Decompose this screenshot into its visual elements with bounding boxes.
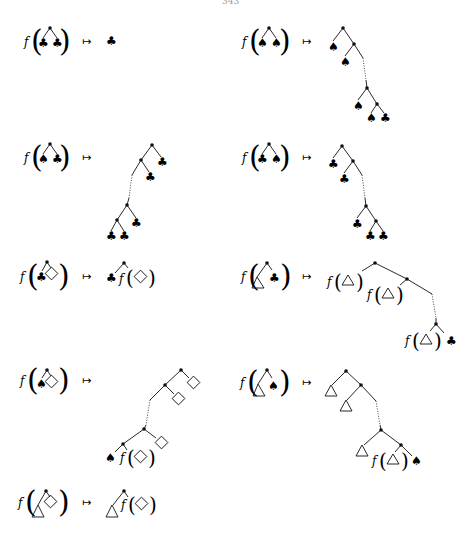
spade-icon: ♠ xyxy=(268,379,279,393)
club-icon: ♣ xyxy=(131,216,142,230)
function-symbol: f xyxy=(241,35,249,49)
function-symbol: f xyxy=(120,498,128,512)
maps-to-arrow: ↦ xyxy=(82,374,91,387)
club-icon: ♣ xyxy=(106,34,117,48)
rule-6: f ( ♣ ) ↦ f ( ) f ( ) f ( ) ♣ xyxy=(240,258,457,353)
club-icon: ♣ xyxy=(106,271,117,285)
diamond-icon xyxy=(135,497,148,510)
spade-icon: ♠ xyxy=(340,55,351,69)
club-icon: ♣ xyxy=(339,172,350,186)
function-symbol: f xyxy=(326,275,334,289)
function-symbol: f xyxy=(239,376,247,390)
diamond-icon xyxy=(45,267,58,280)
maps-to-arrow: ↦ xyxy=(82,496,91,509)
rule-1: f ( ♣ ♣ ) ↦ ♣ xyxy=(23,23,117,58)
diamond-icon xyxy=(45,375,58,388)
maps-to-arrow: ↦ xyxy=(302,35,311,48)
spade-icon: ♠ xyxy=(257,36,268,50)
triangle-icon xyxy=(382,288,394,298)
close-paren: ) xyxy=(149,493,157,517)
open-paren: ( xyxy=(128,493,136,517)
rule-5: f ( ♣ ) ↦ ♣ f ( ) xyxy=(19,258,156,293)
close-paren: ) xyxy=(148,446,156,470)
open-paren: ( xyxy=(126,266,134,290)
triangle-icon xyxy=(325,385,337,396)
open-paren: ( xyxy=(374,283,382,307)
maps-to-arrow: ↦ xyxy=(302,376,311,389)
close-paren: ) xyxy=(280,258,292,293)
close-paren: ) xyxy=(401,449,409,473)
spade-icon: ♠ xyxy=(353,99,364,113)
close-paren: ) xyxy=(148,266,156,290)
club-icon: ♣ xyxy=(328,157,339,171)
rule-8: f ( ♠ ) ↦ f ( ) ♠ xyxy=(239,364,422,473)
maps-to-arrow: ↦ xyxy=(82,270,91,283)
club-icon: ♣ xyxy=(257,152,268,166)
club-icon: ♣ xyxy=(352,217,363,231)
diamond-icon xyxy=(134,270,147,283)
maps-to-arrow: ↦ xyxy=(302,270,311,283)
spade-icon: ♠ xyxy=(366,111,377,125)
diamond-icon xyxy=(44,495,57,508)
spade-icon: ♠ xyxy=(36,377,47,391)
function-symbol: f xyxy=(241,151,249,165)
tree-rewrite-diagram: f ( ♣ ♣ ) ↦ ♣ f ( ♠ ♠ ) ↦ ♠ ♠ ♠ xyxy=(0,0,466,534)
spade-icon: ♠ xyxy=(105,451,116,465)
club-icon: ♣ xyxy=(36,270,47,284)
rule-4: f ( ♣ ♠ ) ↦ ♣ ♣ ♣ ♣ ♣ xyxy=(241,139,389,243)
open-paren: ( xyxy=(247,364,259,399)
maps-to-arrow: ↦ xyxy=(82,151,91,164)
close-paren: ) xyxy=(59,23,71,58)
spade-icon: ♠ xyxy=(328,40,339,54)
close-paren: ) xyxy=(356,270,364,294)
open-paren: ( xyxy=(334,270,342,294)
club-icon: ♣ xyxy=(378,229,389,243)
maps-to-arrow: ↦ xyxy=(302,151,311,164)
function-symbol: f xyxy=(371,454,379,468)
function-symbol: f xyxy=(119,451,127,465)
function-symbol: f xyxy=(118,272,126,286)
function-symbol: f xyxy=(23,151,31,165)
triangle-icon xyxy=(342,275,354,285)
function-symbol: f xyxy=(19,270,27,284)
close-paren: ) xyxy=(59,139,71,174)
close-paren: ) xyxy=(58,484,70,519)
club-icon: ♣ xyxy=(380,111,391,125)
spade-icon: ♠ xyxy=(411,454,422,468)
function-symbol: f xyxy=(366,288,374,302)
club-icon: ♣ xyxy=(106,229,117,243)
close-paren: ) xyxy=(434,329,442,353)
rule-9: f ( ) ↦ f ( ) xyxy=(17,484,157,519)
close-paren: ) xyxy=(58,362,70,397)
rule-2: f ( ♠ ♠ ) ↦ ♠ ♠ ♠ ♠ ♣ xyxy=(241,23,391,125)
close-paren: ) xyxy=(396,283,404,307)
diamond-icon xyxy=(172,392,185,405)
club-icon: ♣ xyxy=(38,36,49,50)
club-icon: ♣ xyxy=(145,170,156,184)
club-icon: ♣ xyxy=(269,271,280,285)
club-icon: ♣ xyxy=(365,229,376,243)
close-paren: ) xyxy=(279,23,291,58)
triangle-icon xyxy=(387,454,399,464)
function-symbol: f xyxy=(23,35,31,49)
triangle-icon xyxy=(356,445,368,456)
rule-7: f ( ♠ ) ↦ ♠ f ( ) xyxy=(19,362,200,470)
open-paren: ( xyxy=(25,484,37,519)
function-symbol: f xyxy=(404,334,412,348)
diamond-icon xyxy=(134,450,147,463)
function-symbol: f xyxy=(17,496,25,510)
close-paren: ) xyxy=(279,364,291,399)
diamond-icon xyxy=(155,436,168,449)
triangle-icon xyxy=(420,334,432,344)
open-paren: ( xyxy=(379,449,387,473)
function-symbol: f xyxy=(240,270,248,284)
diamond-icon xyxy=(187,376,200,389)
triangle-icon xyxy=(340,400,352,411)
spade-icon: ♠ xyxy=(38,152,49,166)
function-symbol: f xyxy=(19,374,27,388)
open-paren: ( xyxy=(127,446,135,470)
open-paren: ( xyxy=(412,329,420,353)
close-paren: ) xyxy=(58,258,70,293)
club-icon: ♣ xyxy=(157,155,168,169)
close-paren: ) xyxy=(279,139,291,174)
